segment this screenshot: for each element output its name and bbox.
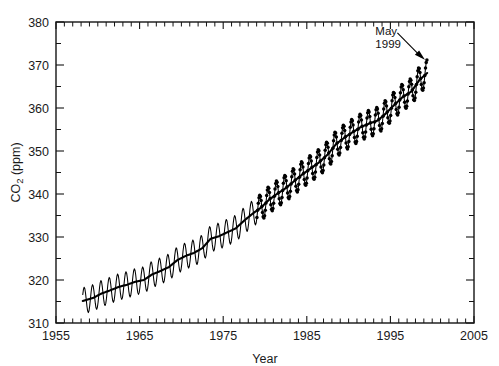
- data-point: [381, 114, 385, 118]
- data-point: [385, 110, 389, 114]
- y-tick-label: 320: [28, 274, 49, 288]
- data-point: [422, 86, 426, 90]
- data-point: [349, 126, 353, 130]
- data-point: [264, 209, 268, 213]
- data-point: [339, 139, 343, 143]
- data-point: [410, 83, 414, 87]
- data-point: [259, 199, 263, 203]
- data-point: [418, 71, 422, 75]
- x-tick-label: 1975: [209, 329, 237, 343]
- data-point: [405, 104, 409, 108]
- data-point: [422, 81, 426, 85]
- data-point: [323, 156, 327, 160]
- data-point: [334, 131, 338, 135]
- data-point: [268, 197, 272, 201]
- data-point: [395, 108, 399, 112]
- data-point: [424, 66, 428, 70]
- data-point: [388, 119, 392, 123]
- y-tick-label: 360: [28, 102, 49, 116]
- data-point: [380, 127, 384, 131]
- y-tick-label: 350: [28, 145, 49, 159]
- data-point: [332, 139, 336, 143]
- data-point: [322, 163, 326, 167]
- data-point: [318, 153, 322, 157]
- y-tick-label: 370: [28, 59, 49, 73]
- data-point: [319, 165, 323, 169]
- data-point: [397, 106, 401, 110]
- data-point: [293, 178, 297, 182]
- data-point: [347, 140, 351, 144]
- data-point: [267, 187, 271, 191]
- data-point: [306, 169, 310, 173]
- x-axis-title: Year: [252, 352, 277, 366]
- data-point: [282, 181, 286, 185]
- y-tick-label: 310: [28, 317, 49, 331]
- data-point: [376, 107, 380, 111]
- y-axis-title-base: CO: [9, 184, 23, 203]
- data-point: [363, 135, 367, 139]
- data-point: [301, 165, 305, 169]
- data-point: [255, 216, 259, 220]
- data-point: [389, 114, 393, 118]
- chart-canvas: 195519651975198519952005 310320330340350…: [0, 0, 499, 366]
- data-point: [407, 85, 411, 89]
- data-point: [284, 179, 288, 183]
- data-point: [367, 110, 371, 114]
- data-point: [335, 141, 339, 145]
- data-point: [315, 156, 319, 160]
- data-point: [385, 104, 389, 108]
- y-axis-title-unit: (ppm): [9, 142, 23, 178]
- data-point: [310, 159, 314, 163]
- data-point: [415, 75, 419, 79]
- data-point: [327, 151, 331, 155]
- data-point: [313, 175, 317, 179]
- data-point: [326, 145, 330, 149]
- data-point: [298, 175, 302, 179]
- data-point: [357, 120, 361, 124]
- data-point: [260, 205, 264, 209]
- x-tick-label: 1985: [293, 329, 321, 343]
- data-point: [280, 196, 284, 200]
- data-point: [417, 67, 421, 71]
- data-point: [423, 74, 427, 78]
- data-point: [297, 183, 301, 187]
- data-point: [314, 163, 318, 167]
- data-point: [340, 131, 344, 135]
- svg-text:CO2 (ppm): CO2 (ppm): [9, 142, 25, 202]
- data-point: [264, 201, 268, 205]
- data-point: [310, 165, 314, 169]
- data-point: [343, 129, 347, 133]
- data-point: [377, 118, 381, 122]
- data-point: [321, 169, 325, 173]
- data-point: [406, 92, 410, 96]
- data-point: [330, 154, 334, 158]
- data-point: [289, 189, 293, 193]
- data-point: [272, 202, 276, 206]
- data-point: [386, 116, 390, 120]
- x-tick-label: 1995: [376, 329, 404, 343]
- data-point: [263, 214, 267, 218]
- data-point: [406, 99, 410, 103]
- data-point: [319, 159, 323, 163]
- data-point: [376, 112, 380, 116]
- data-point: [390, 99, 394, 103]
- data-point: [368, 115, 372, 119]
- data-point: [293, 172, 297, 176]
- data-point: [394, 102, 398, 106]
- y-tick-label: 340: [28, 188, 49, 202]
- data-point: [352, 129, 356, 133]
- y-tick-label: 380: [28, 16, 49, 30]
- data-point: [302, 171, 306, 175]
- data-point: [305, 176, 309, 180]
- data-point: [290, 175, 294, 179]
- data-point: [317, 149, 321, 153]
- data-point: [409, 78, 413, 82]
- data-point: [381, 122, 385, 126]
- data-point: [285, 185, 289, 189]
- data-point: [309, 155, 313, 159]
- data-point: [397, 111, 401, 115]
- data-point: [314, 170, 318, 174]
- y-axis-title: CO2 (ppm): [9, 142, 25, 202]
- data-point: [256, 209, 260, 213]
- data-point: [339, 146, 343, 150]
